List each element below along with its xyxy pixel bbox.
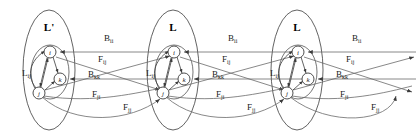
edge-Fjj-1 bbox=[42, 97, 160, 118]
figure-canvas: ikjikjikj L'LL BiiFijBkkFjiFjjLijBiiFijB… bbox=[0, 0, 420, 138]
node-label-g2-j: j bbox=[161, 90, 164, 98]
edge-label-Fji-2: Fji bbox=[216, 89, 225, 100]
edge-Fjj-3 bbox=[290, 96, 396, 118]
edge-label-sub-Fjj-1: jj bbox=[127, 107, 132, 113]
edge-label-sub-Bii-3: ii bbox=[358, 38, 362, 44]
edge-label-sub-Fjj-3: jj bbox=[375, 107, 380, 113]
layered-graph-diagram: ikjikjikj L'LL BiiFijBkkFjiFjjLijBiiFijB… bbox=[0, 0, 420, 138]
edge-label-sub-Fij-3: ij bbox=[351, 59, 355, 65]
edge-Fij-2 bbox=[180, 57, 284, 90]
node-label-g2-i: i bbox=[173, 49, 175, 57]
edge-label-sub-Fji-2: ji bbox=[220, 94, 225, 100]
edge-label-sub-Bkk-3: kk bbox=[342, 74, 348, 80]
group-labels: L'LL bbox=[44, 21, 301, 33]
edge-label-sub-Bii-1: ii bbox=[110, 38, 114, 44]
edge-label-Fjj-1: Fjj bbox=[123, 102, 132, 113]
node-label-g3-i: i bbox=[297, 49, 299, 57]
edge-g3-i-j bbox=[288, 58, 295, 87]
edge-label-sub-Bkk-1: kk bbox=[94, 74, 100, 80]
edge-g1-i-k bbox=[53, 57, 58, 73]
edge-Lij-long-3 bbox=[292, 86, 412, 99]
edge-Fij-1 bbox=[56, 57, 160, 90]
edge-g1-j-i bbox=[41, 58, 48, 87]
edge-label-sub-Fji-1: ji bbox=[96, 94, 101, 100]
edge-label-Fij-2: Fij bbox=[222, 54, 231, 65]
edge-label-Bii-1: Bii bbox=[104, 33, 114, 44]
edge-label-Fij-3: Fij bbox=[346, 54, 355, 65]
edge-g1-loop-ji bbox=[30, 51, 45, 88]
edge-label-sub-Bkk-2: kk bbox=[218, 74, 224, 80]
edge-label-Fjj-3: Fjj bbox=[371, 102, 380, 113]
edge-label-sub-Fij-1: ij bbox=[103, 59, 107, 65]
edge-label-Fij-1: Fij bbox=[98, 54, 107, 65]
group-label-g1: L' bbox=[44, 21, 54, 33]
edge-g3-j-i bbox=[289, 58, 296, 87]
edge-g2-i-j bbox=[164, 58, 171, 87]
edge-g1-i-j bbox=[40, 58, 47, 87]
node-label-g1-i: i bbox=[49, 49, 51, 57]
group-label-g2: L bbox=[169, 21, 176, 33]
edge-label-sub-Fij-2: ij bbox=[227, 59, 231, 65]
edge-label-Fjj-2: Fjj bbox=[247, 102, 256, 113]
node-label-g3-j: j bbox=[285, 90, 288, 98]
edge-g2-j-i bbox=[165, 58, 172, 87]
edge-label-Lij-3: Lij bbox=[270, 68, 279, 79]
edge-label-sub-Bii-2: ii bbox=[234, 38, 238, 44]
edge-label-sub-Lij-3: ij bbox=[276, 73, 280, 79]
edge-labels: BiiFijBkkFjiFjjLijBiiFijBkkFjiFjjLijBiiF… bbox=[22, 33, 380, 113]
edge-label-Lij-1: Lij bbox=[22, 68, 31, 79]
edge-label-sub-Lij-1: ij bbox=[28, 73, 32, 79]
edge-label-Lij-2: Lij bbox=[146, 68, 155, 79]
edge-label-Bii-3: Bii bbox=[352, 33, 362, 44]
edge-label-Fji-1: Fji bbox=[92, 89, 101, 100]
edge-g2-i-k bbox=[177, 57, 182, 73]
edge-label-Bii-2: Bii bbox=[228, 33, 238, 44]
edge-label-Fji-3: Fji bbox=[340, 89, 349, 100]
edge-g3-i-k bbox=[301, 57, 306, 73]
edge-label-sub-Lij-2: ij bbox=[152, 73, 156, 79]
edge-label-sub-Fjj-2: jj bbox=[251, 107, 256, 113]
edge-label-sub-Fji-3: ji bbox=[344, 94, 349, 100]
group-label-g3: L bbox=[293, 21, 300, 33]
edge-Fjj-2 bbox=[166, 97, 284, 118]
node-label-g1-j: j bbox=[37, 90, 40, 98]
